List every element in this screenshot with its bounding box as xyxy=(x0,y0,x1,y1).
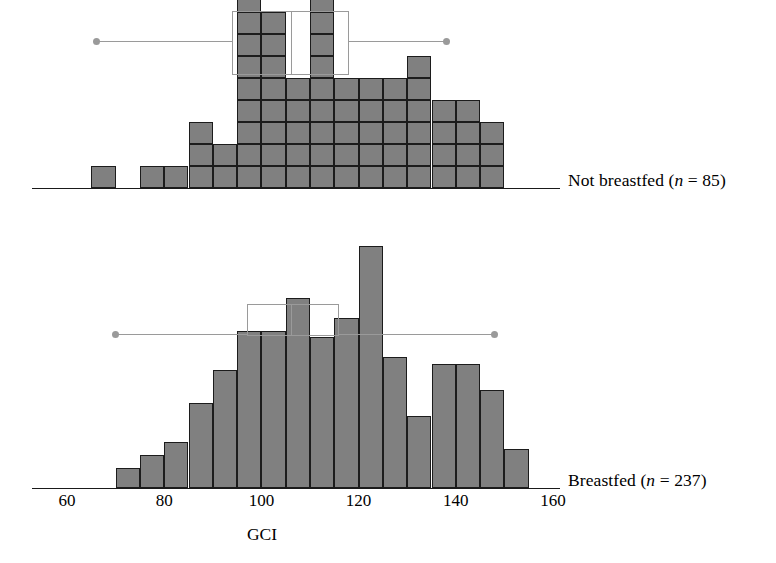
boxplot-whisker-left-not-breastfed xyxy=(96,41,232,42)
histogram-bar xyxy=(480,390,504,488)
boxplot-whisker-right-breastfed xyxy=(339,334,495,335)
dot-cell xyxy=(383,78,407,100)
histogram-bar xyxy=(456,364,480,488)
dot-cell xyxy=(407,78,431,100)
dot-cell xyxy=(189,166,213,188)
group-label-equals: = xyxy=(683,170,702,190)
histogram-bar xyxy=(407,416,431,488)
histogram-bar xyxy=(140,455,164,488)
dot-cell xyxy=(261,122,285,144)
x-tick-120: 120 xyxy=(346,491,372,511)
dot-cell xyxy=(359,78,383,100)
axis-line-bottom xyxy=(32,488,560,489)
dot-cell xyxy=(480,144,504,166)
histogram-bar xyxy=(164,442,188,488)
x-tick-140: 140 xyxy=(443,491,469,511)
group-label-n-symbol: n xyxy=(646,470,655,490)
histogram-bar xyxy=(334,318,358,488)
dot-cell xyxy=(286,144,310,166)
group-label-n-value: 85) xyxy=(702,170,726,190)
dot-cell xyxy=(213,166,237,188)
dot-cell xyxy=(261,78,285,100)
group-label-text: Not breastfed ( xyxy=(568,170,674,190)
x-tick-80: 80 xyxy=(156,491,173,511)
dot-cell xyxy=(310,100,334,122)
boxplot-whisker-left-breastfed xyxy=(116,334,247,335)
dot-cell xyxy=(334,144,358,166)
dot-cell xyxy=(334,78,358,100)
group-label-breastfed: Breastfed (n = 237) xyxy=(568,470,707,491)
dot-cell xyxy=(432,144,456,166)
dot-cell xyxy=(310,78,334,100)
boxplot-cap-max-breastfed xyxy=(491,331,498,338)
dot-cell xyxy=(407,122,431,144)
histogram-bar xyxy=(310,337,334,488)
histogram-bar xyxy=(359,246,383,488)
dot-cell xyxy=(286,122,310,144)
dot-cell xyxy=(213,144,237,166)
histogram-bar xyxy=(504,449,528,488)
dot-cell xyxy=(383,122,407,144)
x-tick-100: 100 xyxy=(249,491,275,511)
histogram-bar xyxy=(432,364,456,488)
histogram-bar xyxy=(237,331,261,488)
dot-cell xyxy=(237,122,261,144)
group-label-n-symbol: n xyxy=(674,170,683,190)
dot-cell xyxy=(432,100,456,122)
dot-cell xyxy=(237,144,261,166)
dot-cell xyxy=(164,166,188,188)
dot-cell xyxy=(456,144,480,166)
boxplot-cap-min-breastfed xyxy=(112,331,119,338)
histogram-bar xyxy=(383,357,407,488)
dot-cell xyxy=(383,144,407,166)
dot-cell xyxy=(359,166,383,188)
boxplot-whisker-right-not-breastfed xyxy=(349,41,446,42)
dot-cell xyxy=(237,100,261,122)
dot-cell xyxy=(456,100,480,122)
dot-cell xyxy=(286,166,310,188)
group-label-text: Breastfed ( xyxy=(568,470,646,490)
dot-cell xyxy=(286,78,310,100)
dot-cell xyxy=(359,100,383,122)
histogram-bar xyxy=(189,403,213,488)
boxplot-box-breastfed xyxy=(247,304,339,336)
group-label-equals: = xyxy=(655,470,674,490)
x-axis-title: GCI xyxy=(247,524,277,545)
dot-cell xyxy=(383,166,407,188)
dot-cell xyxy=(432,166,456,188)
group-label-not-breastfed: Not breastfed (n = 85) xyxy=(568,170,726,191)
x-tick-60: 60 xyxy=(59,491,76,511)
boxplot-median-not-breastfed xyxy=(291,11,292,75)
dot-cell xyxy=(261,144,285,166)
dot-cell xyxy=(334,166,358,188)
dot-cell xyxy=(286,100,310,122)
dot-cell xyxy=(237,78,261,100)
dot-cell xyxy=(310,166,334,188)
histogram-bar xyxy=(213,370,237,488)
dot-cell xyxy=(261,166,285,188)
dot-cell xyxy=(407,56,431,78)
boxplot-cap-min-not-breastfed xyxy=(93,38,100,45)
dot-cell xyxy=(432,122,456,144)
dot-cell xyxy=(310,122,334,144)
dot-cell xyxy=(407,166,431,188)
dot-cell xyxy=(334,100,358,122)
dot-cell xyxy=(140,166,164,188)
boxplot-median-breastfed xyxy=(291,304,292,336)
dot-cell xyxy=(480,166,504,188)
dot-cell xyxy=(480,122,504,144)
dot-cell xyxy=(359,144,383,166)
x-tick-160: 160 xyxy=(540,491,566,511)
dot-cell xyxy=(91,166,115,188)
dot-cell xyxy=(189,144,213,166)
dot-cell xyxy=(407,144,431,166)
dot-cell xyxy=(334,122,358,144)
boxplot-cap-max-not-breastfed xyxy=(443,38,450,45)
dot-cell xyxy=(456,166,480,188)
dot-cell xyxy=(383,100,407,122)
histogram-bar xyxy=(261,331,285,488)
dot-cell xyxy=(359,122,383,144)
dot-cell xyxy=(310,144,334,166)
dot-cell xyxy=(261,100,285,122)
axis-line-top xyxy=(32,188,560,189)
